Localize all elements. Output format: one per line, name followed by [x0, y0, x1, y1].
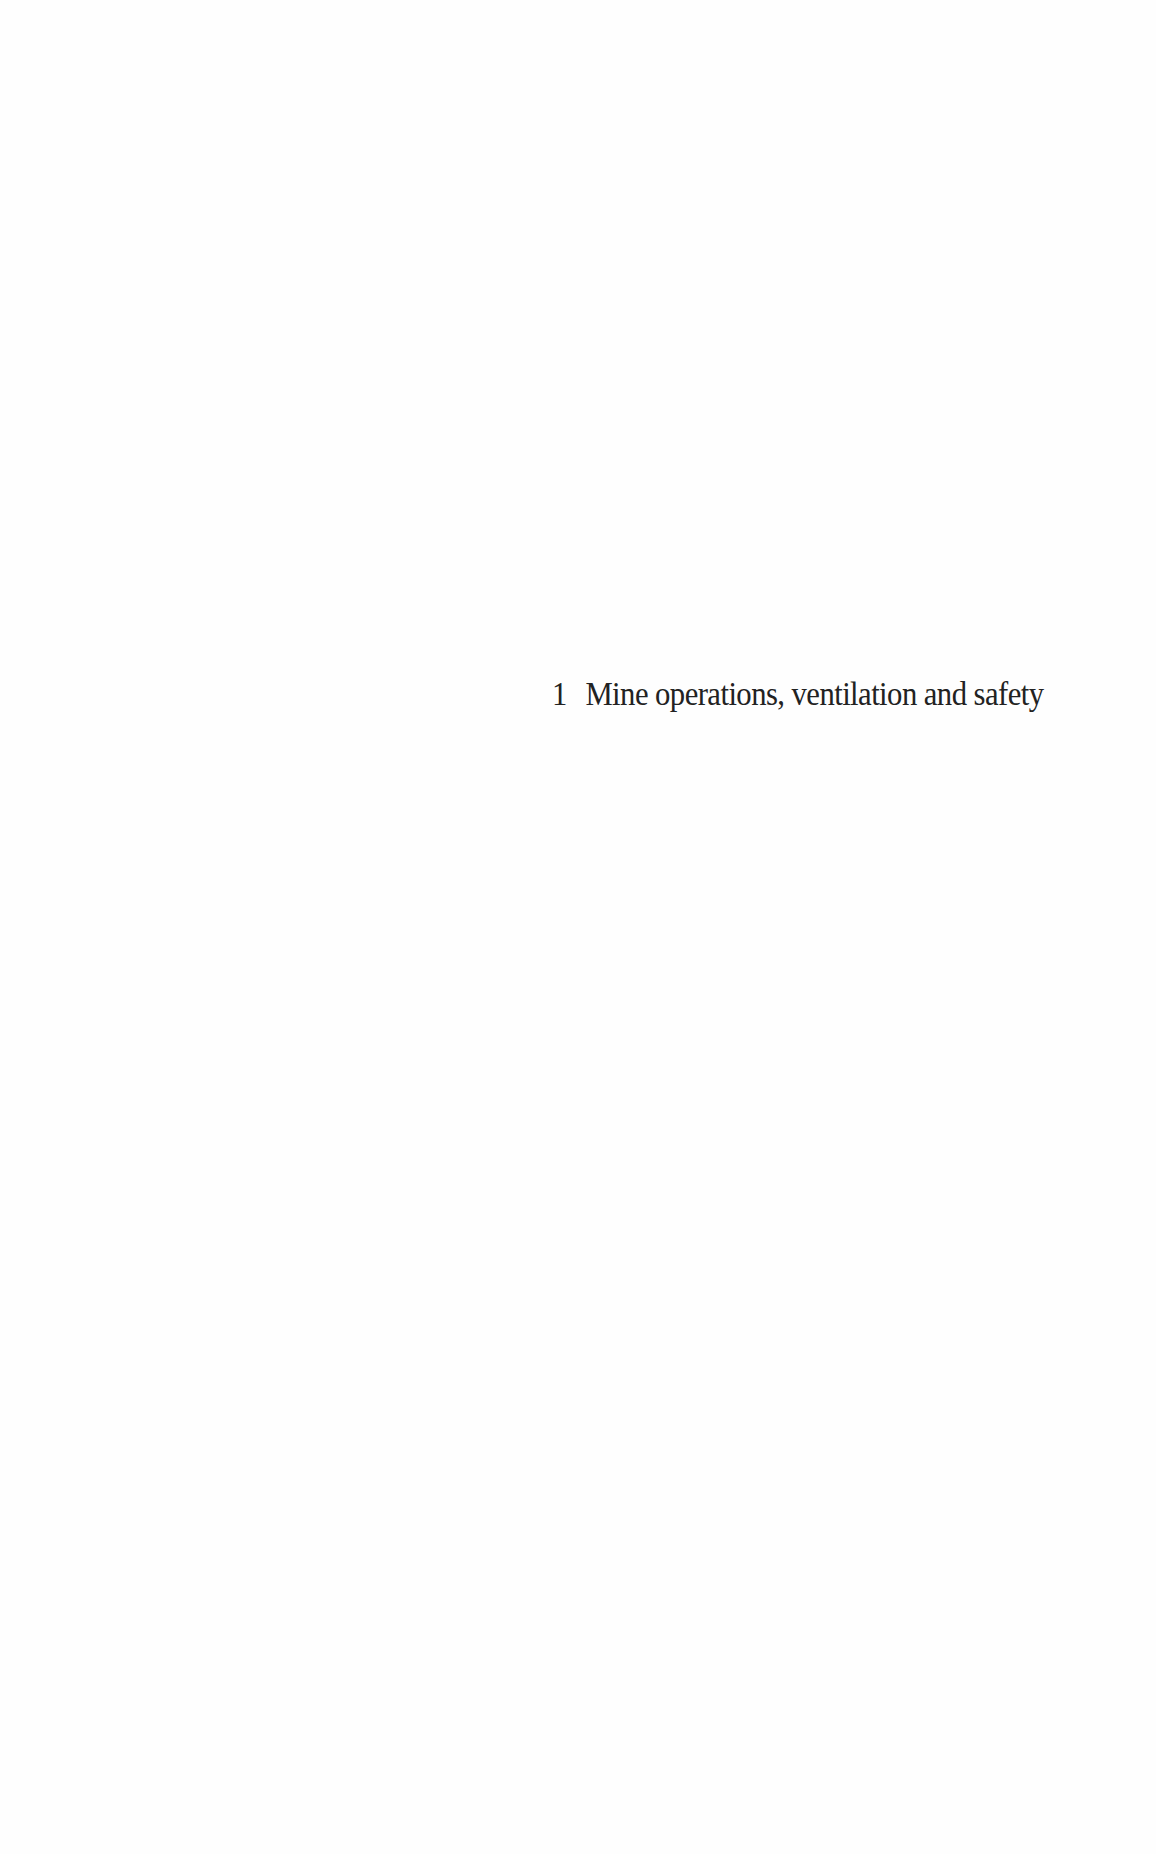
document-page: 1Mine operations, ventilation and safety	[0, 0, 1156, 1854]
part-heading: 1Mine operations, ventilation and safety	[552, 672, 1043, 716]
part-title: Mine operations, ventilation and safety	[585, 676, 1043, 712]
part-number: 1	[552, 672, 567, 716]
